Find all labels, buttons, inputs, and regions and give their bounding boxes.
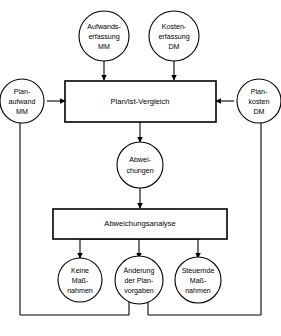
steuernde-massnahmen-label-line1: Steuernde: [182, 267, 215, 275]
aufwandserfassung-label-line1: Aufwands-: [87, 23, 121, 31]
steuernde-massnahmen-label-line3: nahmen: [185, 287, 211, 295]
aufwandserfassung-label-line3: MM: [98, 43, 110, 51]
keine-massnahmen-label-line3: nahmen: [67, 287, 93, 295]
abweichungen-label-line2: chungen: [126, 167, 153, 175]
planaufwand-label-line3: MM: [16, 108, 28, 116]
node-planaufwand: Plan- aufwand MM: [0, 79, 44, 123]
diagram-canvas: Aufwands- erfassung MM Kosten- erfassung…: [0, 0, 281, 336]
steuernde-massnahmen-label-line2: Maß-: [190, 277, 207, 285]
kostenerfassung-label-line3: DM: [168, 43, 179, 51]
node-plan-ist-vergleich: Plan/Ist-Vergleich: [65, 81, 216, 122]
node-aenderung-planvorgaben: Änderung der Plan- vorgaben: [115, 256, 163, 304]
node-kostenerfassung: Kosten- erfassung DM: [149, 11, 199, 61]
aenderung-planvorgaben-label-line2: der Plan-: [125, 277, 154, 285]
node-keine-massnahmen: Keine Maß- nahmen: [58, 258, 102, 302]
abweichungen-label-line1: Abwei-: [129, 156, 151, 164]
kostenerfassung-label-line2: erfassung: [158, 33, 189, 41]
node-steuernde-massnahmen: Steuernde Maß- nahmen: [175, 257, 221, 303]
abweichungen-circle: [117, 142, 163, 188]
kostenerfassung-label-line1: Kosten-: [162, 23, 187, 31]
node-plankosten: Plan- kosten DM: [237, 79, 281, 123]
flowchart-diagram: Aufwands- erfassung MM Kosten- erfassung…: [0, 0, 281, 336]
node-abweichungsanalyse: Abweichungsanalyse: [53, 209, 227, 239]
node-abweichungen: Abwei- chungen: [117, 142, 163, 188]
planaufwand-label-line1: Plan-: [14, 88, 31, 96]
plankosten-label-line1: Plan-: [251, 88, 268, 96]
keine-massnahmen-label-line2: Maß-: [72, 277, 89, 285]
keine-massnahmen-label-line1: Keine: [71, 267, 89, 275]
aufwandserfassung-label-line2: erfassung: [88, 33, 119, 41]
aenderung-planvorgaben-label-line3: vorgaben: [124, 287, 154, 295]
aenderung-planvorgaben-label-line1: Änderung: [124, 267, 155, 275]
planaufwand-label-line2: aufwand: [9, 98, 36, 106]
abweichungsanalyse-label: Abweichungsanalyse: [104, 219, 175, 228]
plankosten-label-line3: DM: [253, 108, 264, 116]
plankosten-label-line2: kosten: [249, 98, 270, 106]
node-aufwandserfassung: Aufwands- erfassung MM: [79, 11, 129, 61]
plan-ist-vergleich-label: Plan/Ist-Vergleich: [110, 97, 169, 106]
